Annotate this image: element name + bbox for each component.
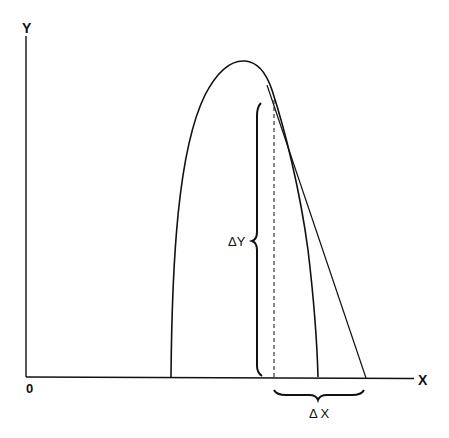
x-axis-label: X: [418, 373, 427, 387]
delta-x-label: Δ X: [309, 407, 329, 420]
delta-x-brace: [274, 390, 364, 400]
delta-y-label: ΔY: [228, 235, 245, 248]
y-axis-label: Y: [22, 21, 31, 35]
origin-label: 0: [26, 382, 33, 395]
delta-y-brace: [252, 103, 262, 376]
x-axis: [26, 377, 414, 379]
diagram-canvas: [0, 0, 449, 438]
curve: [171, 61, 318, 377]
